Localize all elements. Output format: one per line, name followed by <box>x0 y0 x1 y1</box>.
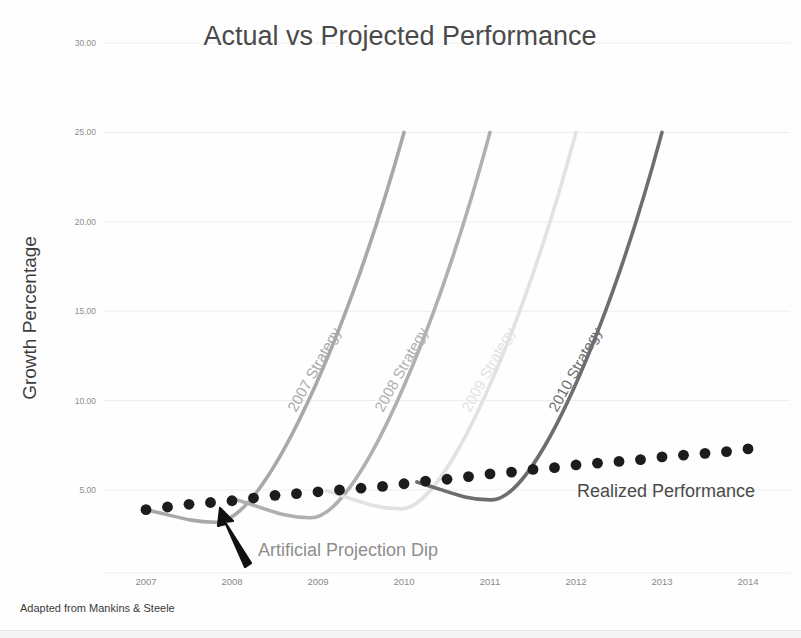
realized-performance-point <box>678 450 689 461</box>
y-axis-label: Growth Percentage <box>19 236 40 400</box>
realized-performance-point <box>657 452 668 463</box>
realized-performance-point <box>635 454 646 465</box>
realized-performance-point <box>506 467 517 478</box>
y-tick-label: 15.00 <box>75 306 97 316</box>
realized-performance-label: Realized Performance <box>577 481 755 501</box>
x-tick-label: 2013 <box>651 576 672 587</box>
y-tick-label: 25.00 <box>75 127 97 137</box>
realized-performance-point <box>571 460 582 471</box>
realized-performance-point <box>614 456 625 467</box>
x-tick-label: 2014 <box>737 576 758 587</box>
realized-performance-point <box>162 502 173 513</box>
realized-performance-point <box>205 497 216 508</box>
realized-performance-point <box>549 462 560 473</box>
realized-performance-point <box>463 471 474 482</box>
realized-performance-point <box>721 446 732 457</box>
realized-performance-point <box>248 493 259 504</box>
x-tick-label: 2011 <box>480 576 500 587</box>
realized-performance-point <box>700 448 711 459</box>
realized-performance-point <box>291 488 302 499</box>
bottom-edge-strip <box>0 630 801 638</box>
realized-performance-point <box>420 476 431 487</box>
x-tick-label: 2012 <box>565 576 586 587</box>
realized-performance-point <box>442 474 453 485</box>
projection-curves <box>146 132 662 522</box>
realized-performance-point <box>227 495 238 506</box>
y-tick-label: 20.00 <box>75 217 97 227</box>
realized-performance-point <box>184 499 195 510</box>
artificial-projection-dip-label: Artificial Projection Dip <box>258 540 438 560</box>
realized-performance-point <box>141 504 152 515</box>
realized-performance-point <box>399 478 410 489</box>
x-axis-ticks: 20072008200920102011201220132014 <box>135 576 758 587</box>
x-tick-label: 2009 <box>307 576 328 587</box>
projection-curve-2009 <box>327 132 576 508</box>
projection-curve-2010 <box>417 132 662 499</box>
realized-performance-point <box>743 443 754 454</box>
y-tick-label: 5.00 <box>79 485 96 495</box>
y-axis-ticks: 5.0010.0015.0020.0025.0030.00 <box>75 38 97 495</box>
realized-performance-point <box>356 483 367 494</box>
x-tick-label: 2007 <box>135 576 156 587</box>
realized-performance-point <box>485 469 496 480</box>
realized-performance-point <box>592 458 603 469</box>
realized-performance-point <box>377 481 388 492</box>
x-tick-label: 2008 <box>221 576 242 587</box>
realized-performance-point <box>334 485 345 496</box>
source-note: Adapted from Mankins & Steele <box>20 602 175 614</box>
x-tick-label: 2010 <box>393 576 414 587</box>
chart-title: Actual vs Projected Performance <box>203 21 596 51</box>
realized-performance-point <box>270 490 281 501</box>
realized-performance-point <box>528 464 539 475</box>
y-tick-label: 30.00 <box>75 38 97 48</box>
realized-performance-point <box>313 486 324 497</box>
y-tick-label: 10.00 <box>75 396 97 406</box>
realized-performance-series <box>141 443 754 515</box>
